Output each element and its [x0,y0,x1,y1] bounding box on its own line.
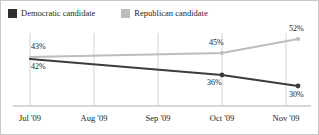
x-tick-label-nov: Nov '09 [262,113,310,123]
x-tick-label-oct: Oct '09 [198,113,246,123]
x-tick-label-aug: Aug '09 [70,113,118,123]
chart-plot-area: 43% 42% 45% 36% 52% 30% Jul '09 Aug '09 … [1,21,319,135]
data-point-democratic-oct[interactable] [220,73,225,78]
data-point-republican-oct[interactable] [220,51,224,55]
data-label-republican-oct: 45% [209,38,224,47]
data-label-republican-nov: 52% [289,24,304,33]
legend-item-republican[interactable]: Republican candidate [121,6,207,20]
legend-swatch-square-icon [121,9,130,18]
chart-legend: Democratic candidate Republican candidat… [1,5,319,21]
x-tick-label-jul: Jul '09 [8,113,52,123]
data-label-democratic-oct: 36% [207,78,222,87]
legend-label-democratic: Democratic candidate [21,8,95,18]
series-line-republican [30,39,298,57]
data-label-democratic-jul: 42% [31,62,46,71]
legend-label-republican: Republican candidate [134,8,207,18]
legend-item-democratic[interactable]: Democratic candidate [8,6,95,20]
legend-swatch-square-icon [8,9,17,18]
chart-figure: Democratic candidate Republican candidat… [0,0,319,135]
data-point-republican-nov[interactable] [296,37,300,41]
data-label-democratic-nov: 30% [289,90,304,99]
data-label-republican-jul: 43% [31,42,46,51]
data-point-democratic-nov[interactable] [296,84,301,89]
x-tick-label-sep: Sep '09 [134,113,182,123]
series-line-democratic [30,59,298,86]
